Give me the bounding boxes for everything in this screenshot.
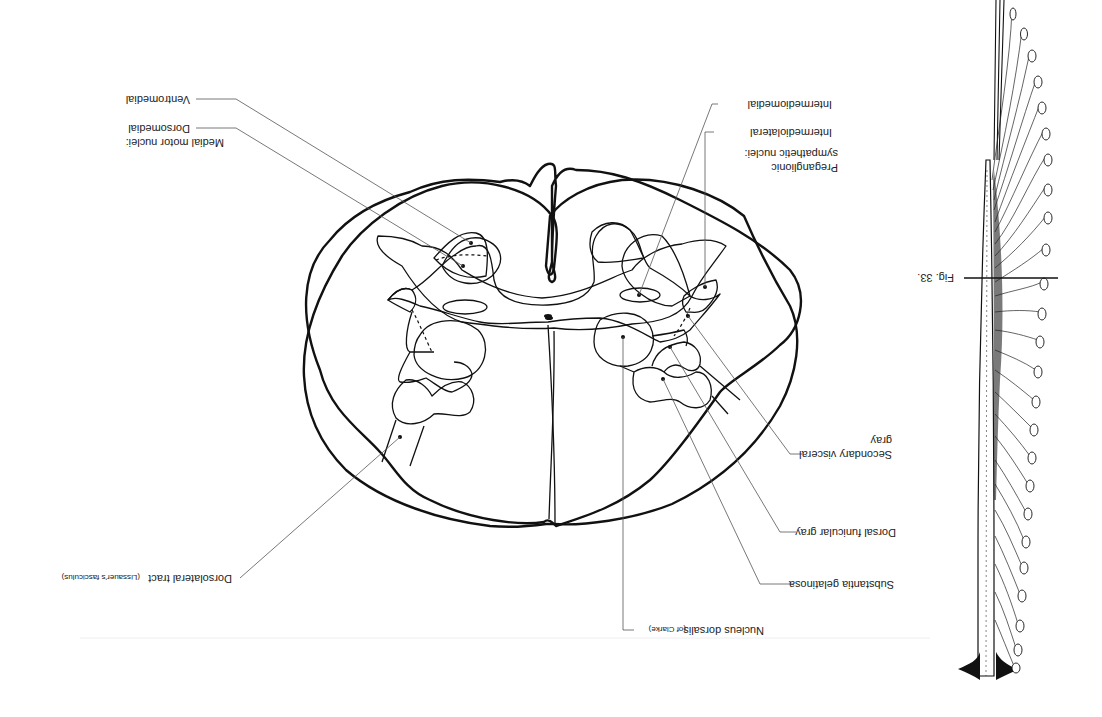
label-secondary-visceral-line1: Secondary visceral	[799, 449, 892, 461]
substantia-gelatinosa-left	[392, 380, 473, 424]
intermediomedial-nucleus-left	[443, 300, 487, 314]
leader-substantia-gelatinosa	[663, 379, 794, 584]
label-preganglionic-line2: sympathetic nuclei:	[744, 148, 838, 160]
dorsal-horn-left	[398, 352, 472, 392]
label-nucleus-dorsalis-suffix: (of Clarke)	[648, 625, 686, 634]
spinal-cord-diagram: Ventromedial Dorsomedial Medial motor nu…	[0, 0, 1102, 717]
cord-base-flare	[958, 652, 980, 680]
label-intermediolateral: Intermediolateral	[750, 127, 832, 139]
label-preganglionic-line1: Preganglionic	[771, 162, 838, 174]
label-nucleus-dorsalis: Nucleus dorsalis	[683, 625, 764, 637]
leader-secondary-visceral	[688, 316, 802, 454]
leader-lines	[196, 99, 802, 630]
cross-section	[304, 179, 797, 526]
nucleus-dorsalis-left	[414, 321, 486, 380]
label-dorsomedial: Dorsomedial	[128, 123, 190, 135]
medial-boundary-right	[620, 366, 634, 372]
labels: Ventromedial Dorsomedial Medial motor nu…	[61, 94, 954, 637]
gray-boundary-right	[652, 330, 687, 346]
dorsolateral-tract-left	[382, 420, 424, 466]
label-intermediomedial: Intermediomedial	[748, 99, 832, 111]
longitudinal-cord	[958, 0, 1058, 680]
motor-nuclei-divider	[436, 255, 488, 260]
intermediolateral-nucleus	[683, 280, 718, 312]
nucleus-dorsalis-right	[594, 313, 653, 366]
gray-boundary-left	[406, 312, 434, 352]
central-canal-screen	[544, 314, 552, 318]
dorsal-root-ganglia	[1010, 8, 1052, 673]
substantia-gelatinosa-right	[633, 368, 711, 408]
leader-dorsolateral-tract	[240, 437, 400, 578]
label-substantia-gelatinosa: Substantia gelatinosa	[788, 579, 894, 591]
label-dorsal-funicular-gray: Dorsal funicular gray	[795, 527, 896, 539]
gray-matter-outline	[388, 224, 720, 342]
leader-ventromedial	[196, 99, 471, 243]
leader-dorsomedial	[196, 128, 463, 266]
lateral-horn-left	[388, 288, 416, 312]
ventral-horn-screen-right	[590, 223, 644, 263]
label-secondary-visceral-line2: gray	[870, 435, 892, 447]
label-figure-number: Fig. 33.	[917, 272, 954, 284]
filum-fibers-top	[994, 0, 1004, 160]
label-dorsolateral-tract-suffix: (Lissauer's fasciculus)	[61, 573, 140, 582]
label-medial-motor-nuclei: Medial motor nuclei:	[126, 137, 224, 149]
cord-body	[978, 160, 994, 676]
label-dorsolateral-tract: Dorsolateral tract	[148, 573, 232, 585]
label-ventromedial: Ventromedial	[126, 94, 190, 106]
